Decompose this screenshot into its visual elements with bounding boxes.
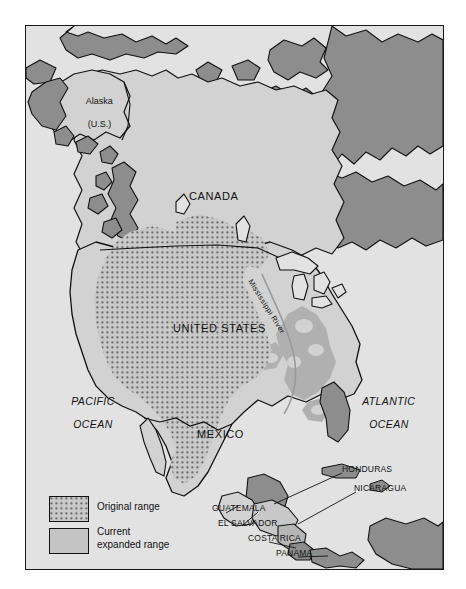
lake-michigan <box>292 274 308 300</box>
range-hole-a <box>295 319 313 333</box>
greenland-and-ne-canada <box>318 26 443 166</box>
pacific-line-2: OCEAN <box>73 418 112 430</box>
label-atlantic-ocean: ATLANTIC OCEAN <box>339 384 419 443</box>
alaska-line-1: Alaska <box>86 96 113 106</box>
label-panama: PANAMA <box>276 549 312 559</box>
legend-label-current-expanded-range: Current expanded range <box>97 526 169 551</box>
label-canada: CANADA <box>189 190 238 202</box>
legend-label-original-range: Original range <box>97 501 160 514</box>
legend-dots-graphic <box>50 497 88 521</box>
label-honduras: HONDURAS <box>342 465 392 475</box>
range-hole-b <box>308 344 324 356</box>
label-guatemala: GUATEMALA <box>212 504 266 514</box>
map-frame: Alaska (U.S.) CANADA UNITED STATES MEXIC… <box>25 25 444 570</box>
label-alaska: Alaska (U.S.) <box>63 85 121 141</box>
label-costa-rica: COSTA RICA <box>248 534 301 544</box>
label-united-states: UNITED STATES <box>173 322 266 334</box>
label-nicaragua: NICARAGUA <box>354 484 406 494</box>
pacific-line-1: PACIFIC <box>71 395 114 407</box>
map-screenshot: Alaska (U.S.) CANADA UNITED STATES MEXIC… <box>0 0 466 589</box>
legend-swatch-original-range <box>49 496 89 522</box>
label-pacific-ocean: PACIFIC OCEAN <box>47 384 119 443</box>
atlantic-line-2: OCEAN <box>369 418 408 430</box>
atlantic-line-1: ATLANTIC <box>362 395 415 407</box>
legend-swatch-current-expanded-range <box>49 528 89 554</box>
alaska-line-2: (U.S.) <box>88 119 112 129</box>
label-el-salvador: EL SALVADOR <box>218 519 278 529</box>
label-mexico: MEXICO <box>197 428 244 440</box>
